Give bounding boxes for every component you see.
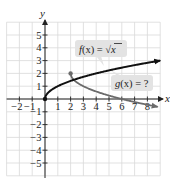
f-label-radicand: x (110, 44, 116, 55)
x-tick-label: 1 (55, 101, 60, 112)
g-label-eq: = ? (133, 78, 149, 89)
g-start-point (68, 71, 72, 75)
g-label: g(x) = ? (111, 75, 153, 91)
x-tick-label: −2 (11, 101, 22, 112)
y-tick-label: 1 (36, 81, 41, 92)
g-label-arg: (x) (120, 78, 133, 90)
x-tick-label: 4 (94, 101, 100, 112)
x-tick-label: 8 (145, 101, 150, 112)
svg-text:f(x) = √x: f(x) = √x (79, 44, 116, 56)
x-tick-label: 5 (106, 101, 111, 112)
y-tick-label: 2 (36, 68, 41, 79)
axes: −2−11234567854321−1−2−3−4−5 x y (7, 7, 170, 178)
x-tick-label: 3 (81, 101, 86, 112)
y-axis-label: y (39, 7, 45, 19)
f-label-arg: (x) (82, 44, 95, 56)
f-start-point (43, 97, 47, 101)
y-tick-label: −4 (30, 145, 42, 156)
function-graph: −2−11234567854321−1−2−3−4−5 x y f(x) = √… (0, 0, 170, 190)
y-tick-label: 4 (36, 42, 42, 53)
x-tick-label: 2 (68, 101, 73, 112)
y-tick-label: 5 (36, 30, 41, 41)
y-tick-label: −1 (30, 106, 41, 117)
f-label: f(x) = √x (75, 40, 127, 57)
f-label-pointer (96, 56, 104, 66)
y-tick-label: −5 (30, 158, 41, 169)
f-label-eq: = (94, 44, 105, 55)
svg-text:g(x) = ?: g(x) = ? (115, 78, 149, 90)
y-tick-label: −3 (30, 132, 41, 143)
y-tick-label: 3 (36, 55, 41, 66)
x-axis-label: x (164, 92, 170, 104)
y-tick-label: −2 (30, 119, 41, 130)
x-tick-label: 6 (119, 101, 124, 112)
